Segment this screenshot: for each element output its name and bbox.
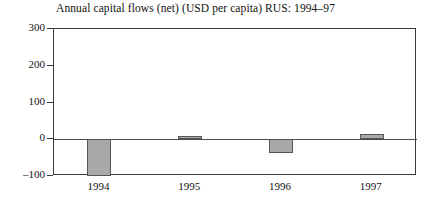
plot-area [53,28,416,175]
chart-title: Annual capital flows (net) (USD per capi… [56,1,335,15]
x-axis-label-1995: 1995 [159,180,219,192]
bar-1995 [178,136,202,139]
x-axis-label-1997: 1997 [341,180,401,192]
x-axis-label-1996: 1996 [250,180,310,192]
y-axis-tick [47,102,53,103]
y-axis-label: 0 [40,132,46,143]
y-axis-tick [47,138,53,139]
y-axis-tick [47,175,53,176]
chart-figure: Annual capital flows (net) (USD per capi… [0,0,438,201]
x-axis-label-1994: 1994 [68,180,128,192]
y-axis-tick [47,28,53,29]
y-axis-label: 200 [29,59,46,70]
y-axis-label: 100 [29,96,46,107]
y-axis-label: –100 [23,169,45,180]
bar-1994 [87,139,111,176]
y-axis-tick [47,65,53,66]
bar-1996 [269,139,293,153]
bar-1997 [360,134,384,139]
y-axis-label: 300 [29,22,46,33]
